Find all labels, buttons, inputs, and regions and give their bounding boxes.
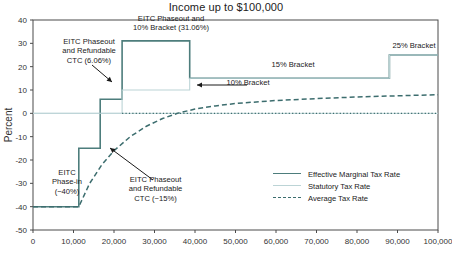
svg-text:50,000: 50,000 xyxy=(223,237,248,246)
svg-text:60,000: 60,000 xyxy=(264,237,289,246)
svg-text:-30: -30 xyxy=(15,179,27,188)
svg-text:-50: -50 xyxy=(15,226,27,235)
legend-label-statutory: Statutory Tax Rate xyxy=(308,182,370,191)
dashed-line-swatch xyxy=(273,194,301,202)
legend-item-statutory: Statutory Tax Rate xyxy=(273,180,400,192)
svg-text:90,000: 90,000 xyxy=(385,237,410,246)
legend-item-average: Average Tax Rate xyxy=(273,192,400,204)
legend-label-effective-marginal: Effective Marginal Tax Rate xyxy=(308,170,400,179)
annotation-eitc-phaseout-ctc-neg15: EITC Phaseout and Refundable CTC (−15%) xyxy=(103,175,208,203)
annotation-eitc-phaseout-ctc-606: EITC Phaseout and Refundable CTC (6.06%) xyxy=(41,37,137,65)
legend-item-effective-marginal: Effective Marginal Tax Rate xyxy=(273,168,400,180)
svg-text:0: 0 xyxy=(31,237,36,246)
chart-legend: Effective Marginal Tax Rate Statutory Ta… xyxy=(273,168,400,204)
annotation-25-bracket: 25% Bracket xyxy=(383,41,445,50)
chart-container: Income up to $100,000 403020100-10-20-30… xyxy=(0,0,452,255)
light-line-swatch xyxy=(273,182,301,190)
svg-text:-40: -40 xyxy=(15,203,27,212)
svg-text:100,000: 100,000 xyxy=(424,237,452,246)
svg-text:70,000: 70,000 xyxy=(304,237,329,246)
svg-text:30: 30 xyxy=(18,39,27,48)
svg-text:40,000: 40,000 xyxy=(183,237,208,246)
solid-line-swatch xyxy=(273,170,301,178)
svg-text:-10: -10 xyxy=(15,133,27,142)
svg-text:10: 10 xyxy=(18,86,27,95)
svg-text:20: 20 xyxy=(18,63,27,72)
annotation-eitc-phaseout-10-bracket: EITC Phaseout and 10% Bracket (31.06%) xyxy=(106,14,236,33)
svg-text:40: 40 xyxy=(18,16,27,25)
annotation-15-bracket: 15% Bracket xyxy=(258,60,328,69)
svg-text:0: 0 xyxy=(23,109,28,118)
svg-text:80,000: 80,000 xyxy=(345,237,370,246)
svg-text:10,000: 10,000 xyxy=(61,237,86,246)
annotation-10-bracket: 10% Bracket xyxy=(213,78,283,87)
svg-text:30,000: 30,000 xyxy=(142,237,167,246)
svg-text:20,000: 20,000 xyxy=(102,237,127,246)
legend-label-average: Average Tax Rate xyxy=(308,194,368,203)
svg-text:Percent: Percent xyxy=(3,108,14,143)
svg-text:-20: -20 xyxy=(15,156,27,165)
annotation-eitc-phase-in: EITC Phase-in (−40%) xyxy=(37,168,97,196)
